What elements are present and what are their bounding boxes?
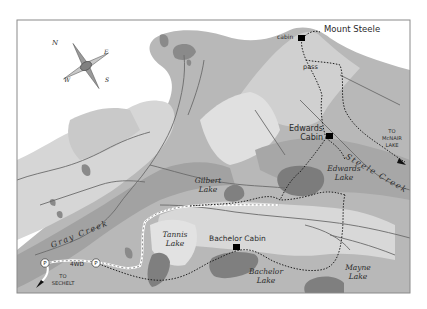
lake-label-tannis-1: Tannis: [163, 230, 188, 239]
label-4wd: 4WD: [70, 261, 84, 267]
label-to-mcnair-2: McNAIR: [382, 135, 402, 141]
label-pass: pass: [303, 63, 318, 71]
lake-label-edwards-2: Lake: [334, 173, 354, 182]
label-cabin: cabin: [277, 33, 293, 40]
parking-marker-1: P: [41, 259, 49, 267]
lake-label-bachelor-1: Bachelor: [248, 267, 283, 276]
lake-label-bachelor-2: Lake: [256, 276, 276, 285]
cabin-icon-mount-steele: [298, 35, 305, 41]
lake-label-tannis-2: Lake: [165, 239, 185, 248]
compass-label-n: N: [51, 39, 59, 47]
trail-map: N E W S P P Mount Steele cabin pass Edwa…: [0, 0, 427, 309]
compass-label-w: W: [64, 76, 71, 83]
map-canvas: N E W S P P Mount Steele cabin pass Edwa…: [0, 0, 427, 309]
lake-edwards: [277, 166, 324, 196]
peak-label-mount-steele: Mount Steele: [324, 24, 380, 34]
label-to-mcnair-1: TO: [387, 128, 395, 134]
label-edwards-cabin-2: Cabin: [300, 133, 323, 142]
compass-label-e: E: [103, 48, 109, 55]
label-to-sechelt-1: TO: [58, 273, 66, 279]
cabin-icon-edwards: [326, 133, 333, 139]
lake-label-gilbert-2: Lake: [198, 185, 218, 194]
compass-label-s: S: [105, 76, 109, 83]
parking-marker-2: P: [92, 259, 100, 267]
label-to-mcnair-3: LAKE: [385, 142, 398, 148]
label-bachelor-cabin: Bachelor Cabin: [209, 234, 266, 243]
label-edwards-cabin-1: Edwards: [289, 124, 323, 133]
cabin-icon-bachelor: [233, 244, 240, 250]
lake-label-mayne-2: Lake: [348, 272, 368, 281]
label-to-sechelt-2: SECHELT: [52, 280, 76, 286]
lake-label-gilbert-1: Gilbert: [195, 176, 223, 185]
lake-label-mayne-1: Mayne: [344, 263, 371, 272]
